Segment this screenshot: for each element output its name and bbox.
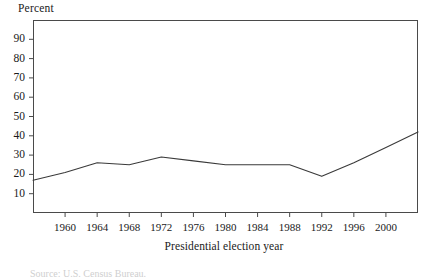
x-tick-label: 1976 [182,222,204,233]
data-series-line [33,132,418,180]
x-tick-label: 1972 [150,222,172,233]
y-axis-tick-marks [29,39,33,193]
x-tick-label: 1980 [215,222,237,233]
x-tick-label: 1992 [311,222,333,233]
x-tick-label: 1988 [279,222,301,233]
x-axis-title: Presidential election year [0,240,448,252]
y-tick-label: 30 [1,149,25,161]
y-tick-label: 50 [1,111,25,123]
y-tick-label: 70 [1,72,25,84]
x-tick-label: 1964 [86,222,108,233]
x-tick-label: 1968 [118,222,140,233]
chart-canvas [0,0,448,278]
y-tick-label: 20 [1,169,25,181]
x-axis-tick-marks [65,213,386,217]
x-tick-label: 1960 [54,222,76,233]
x-tick-label: 1984 [247,222,269,233]
x-tick-label: 2000 [375,222,397,233]
y-tick-label: 10 [1,188,25,200]
source-caption: Source: U.S. Census Bureau. [30,268,430,278]
y-tick-label: 90 [1,34,25,46]
y-tick-label: 60 [1,91,25,103]
y-tick-label: 40 [1,130,25,142]
chart-figure: Percent 102030405060708090 1960196419681… [0,0,448,278]
y-tick-label: 80 [1,53,25,65]
x-tick-label: 1996 [343,222,365,233]
